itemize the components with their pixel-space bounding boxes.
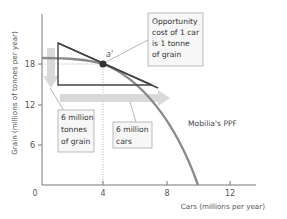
svg-text:Opportunity: Opportunity <box>152 17 198 26</box>
svg-text:is 1 tonne: is 1 tonne <box>152 39 190 48</box>
ppf-chart: Grain (millions of tonnes per year) 18 1… <box>0 0 287 219</box>
ppf-label: Mobilia's PPF <box>188 119 237 128</box>
leader-cars <box>130 102 136 122</box>
svg-text:6 million: 6 million <box>61 113 94 122</box>
svg-text:of grain: of grain <box>61 137 90 146</box>
svg-text:cars: cars <box>116 137 132 146</box>
grain-callout: 6 million tonnes of grain <box>58 110 94 152</box>
point-label: a' <box>106 50 113 59</box>
y-tick-label-12: 12 <box>25 101 35 110</box>
x-tick-label-4: 4 <box>100 189 105 198</box>
y-tick-label-6: 6 <box>30 141 35 150</box>
y-tick-label-18: 18 <box>25 60 35 69</box>
grain-decrease-arrow <box>43 48 59 88</box>
svg-text:cost of 1 car: cost of 1 car <box>152 28 200 37</box>
x-tick-label-12: 12 <box>225 189 235 198</box>
svg-text:tonnes: tonnes <box>61 125 87 134</box>
x-tick-label-8: 8 <box>164 189 169 198</box>
origin-label: 0 <box>32 189 37 198</box>
y-axis-title: Grain (millions of tonnes per year) <box>10 31 19 155</box>
point-a-prime <box>100 61 107 68</box>
svg-text:of grain: of grain <box>152 50 181 59</box>
x-axis-title: Cars (millions per year) <box>181 202 265 211</box>
svg-text:6 million: 6 million <box>116 125 149 134</box>
cars-callout: 6 million cars <box>113 122 152 148</box>
opportunity-cost-callout: Opportunity cost of 1 car is 1 tonne of … <box>148 13 203 66</box>
